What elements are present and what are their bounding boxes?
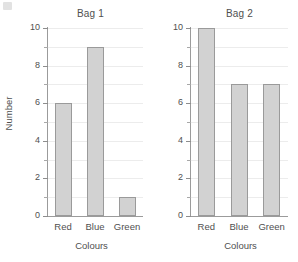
y-axis-minor-tick bbox=[44, 47, 48, 48]
y-axis-title: Number bbox=[3, 84, 14, 144]
x-axis-category-label: Green bbox=[107, 221, 147, 232]
y-axis-tick-label: 10 bbox=[24, 22, 40, 32]
y-axis-tick bbox=[43, 141, 48, 142]
y-axis-tick-label: 10 bbox=[167, 22, 183, 32]
y-axis-minor-tick bbox=[44, 84, 48, 85]
y-axis-tick bbox=[186, 141, 191, 142]
chart-title: Bag 1 bbox=[0, 8, 149, 19]
chart-page: Bag 1 Number Colours 0246810RedBlueGreen… bbox=[0, 0, 298, 262]
y-axis-tick bbox=[186, 178, 191, 179]
y-axis-tick bbox=[43, 28, 48, 29]
y-axis-tick-label: 8 bbox=[24, 60, 40, 70]
bar bbox=[119, 197, 136, 216]
plot-area-1 bbox=[190, 28, 288, 216]
bar bbox=[263, 84, 280, 216]
bar bbox=[87, 47, 104, 216]
y-axis-minor-tick bbox=[44, 122, 48, 123]
x-axis-line bbox=[190, 216, 288, 217]
y-axis-tick bbox=[43, 103, 48, 104]
plot-area-0 bbox=[47, 28, 143, 216]
y-axis-minor-tick bbox=[187, 84, 191, 85]
y-axis-tick-label: 0 bbox=[24, 210, 40, 220]
y-axis-tick bbox=[186, 66, 191, 67]
chart-panel-bag-2: Bag 2 Colours 0246810RedBlueGreen bbox=[149, 0, 298, 262]
y-axis-tick-label: 0 bbox=[167, 210, 183, 220]
y-axis-tick bbox=[43, 216, 48, 217]
y-axis-tick-label: 6 bbox=[167, 97, 183, 107]
y-axis-tick-label: 6 bbox=[24, 97, 40, 107]
y-axis-tick-label: 2 bbox=[24, 172, 40, 182]
y-axis-minor-tick bbox=[187, 160, 191, 161]
y-axis-tick-label: 2 bbox=[167, 172, 183, 182]
y-axis-tick bbox=[43, 178, 48, 179]
y-axis-minor-tick bbox=[187, 197, 191, 198]
y-axis-tick bbox=[186, 28, 191, 29]
y-axis-minor-tick bbox=[44, 160, 48, 161]
x-axis-title: Colours bbox=[0, 240, 149, 251]
bar bbox=[55, 103, 72, 216]
y-axis-tick bbox=[186, 216, 191, 217]
gridline bbox=[47, 28, 143, 29]
y-axis-minor-tick bbox=[187, 122, 191, 123]
chart-panel-bag-1: Bag 1 Number Colours 0246810RedBlueGreen bbox=[0, 0, 149, 262]
y-axis-tick bbox=[186, 103, 191, 104]
y-axis-tick-label: 4 bbox=[167, 135, 183, 145]
bar bbox=[231, 84, 248, 216]
y-axis-minor-tick bbox=[187, 47, 191, 48]
chart-title: Bag 2 bbox=[149, 8, 298, 19]
y-axis-tick-label: 8 bbox=[167, 60, 183, 70]
x-axis-category-label: Green bbox=[252, 221, 292, 232]
y-axis-tick bbox=[43, 66, 48, 67]
x-axis-title: Colours bbox=[149, 240, 298, 251]
bar bbox=[198, 28, 215, 216]
x-axis-line bbox=[47, 216, 143, 217]
y-axis-minor-tick bbox=[44, 197, 48, 198]
y-axis-tick-label: 4 bbox=[24, 135, 40, 145]
